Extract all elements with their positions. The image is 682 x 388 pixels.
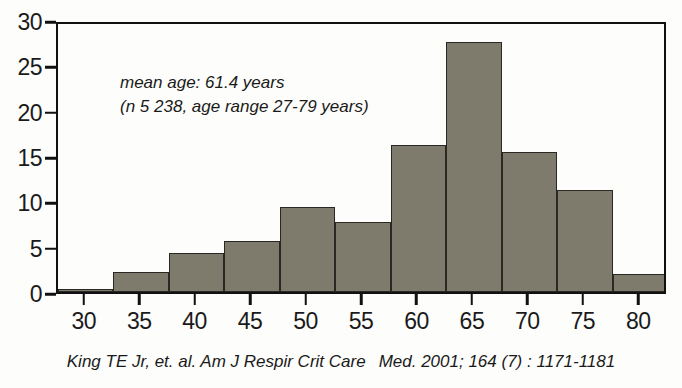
- x-tick-mark: [138, 294, 141, 305]
- x-tick-mark: [360, 294, 363, 305]
- histogram-figure: 051015202530 mean age: 61.4 years (n 5 2…: [0, 0, 682, 388]
- x-tick-label: 60: [404, 308, 429, 335]
- x-tick-label: 55: [349, 308, 374, 335]
- x-axis: 3035404550556065707580: [0, 294, 682, 354]
- y-tick-mark: [45, 21, 56, 24]
- y-tick-mark: [45, 66, 56, 69]
- histogram-bar: [224, 241, 279, 292]
- x-tick-mark: [249, 294, 252, 305]
- y-tick-label: 10: [17, 190, 42, 217]
- x-tick-mark: [637, 294, 640, 305]
- x-tick-mark: [415, 294, 418, 305]
- x-tick-label: 70: [515, 308, 540, 335]
- caption-part-1: King TE Jr, et. al. Am J Respir Crit Car…: [67, 352, 366, 371]
- plot-area: mean age: 61.4 years (n 5 238, age range…: [56, 22, 666, 294]
- x-tick-label: 30: [71, 308, 96, 335]
- y-tick-mark: [45, 202, 56, 205]
- x-tick-mark: [193, 294, 196, 305]
- histogram-bar: [58, 289, 113, 292]
- x-tick-label: 50: [293, 308, 318, 335]
- source-caption: King TE Jr, et. al. Am J Respir Crit Car…: [0, 352, 682, 372]
- histogram-bar: [335, 222, 390, 292]
- histogram-bar: [502, 152, 557, 292]
- y-tick-label: 5: [30, 235, 42, 262]
- y-tick-label: 25: [17, 54, 42, 81]
- y-tick-mark: [45, 111, 56, 114]
- x-tick-label: 35: [127, 308, 152, 335]
- x-tick-label: 75: [571, 308, 596, 335]
- x-tick-mark: [82, 294, 85, 305]
- x-tick-label: 45: [238, 308, 263, 335]
- histogram-bar: [113, 272, 168, 292]
- y-tick-mark: [45, 157, 56, 160]
- histogram-bar: [446, 42, 501, 292]
- annotation-line-1: mean age: 61.4 years: [120, 71, 369, 95]
- y-tick-label: 30: [17, 9, 42, 36]
- x-tick-mark: [471, 294, 474, 305]
- histogram-bar: [280, 207, 335, 292]
- histogram-bar: [391, 145, 446, 292]
- histogram-bar: [169, 253, 224, 292]
- x-tick-label: 80: [626, 308, 651, 335]
- y-tick-label: 15: [17, 145, 42, 172]
- y-tick-mark: [45, 247, 56, 250]
- bar-series: [58, 24, 664, 292]
- histogram-bar: [613, 274, 666, 292]
- y-tick-label: 20: [17, 99, 42, 126]
- annotation-line-2: (n 5 238, age range 27-79 years): [120, 95, 369, 119]
- chart-annotation: mean age: 61.4 years (n 5 238, age range…: [120, 71, 369, 119]
- x-tick-label: 40: [182, 308, 207, 335]
- x-tick-mark: [526, 294, 529, 305]
- caption-part-2: Med. 2001; 164 (7) : 1171-1181: [379, 352, 616, 371]
- x-tick-mark: [582, 294, 585, 305]
- histogram-bar: [557, 190, 612, 292]
- x-tick-mark: [304, 294, 307, 305]
- x-tick-label: 65: [460, 308, 485, 335]
